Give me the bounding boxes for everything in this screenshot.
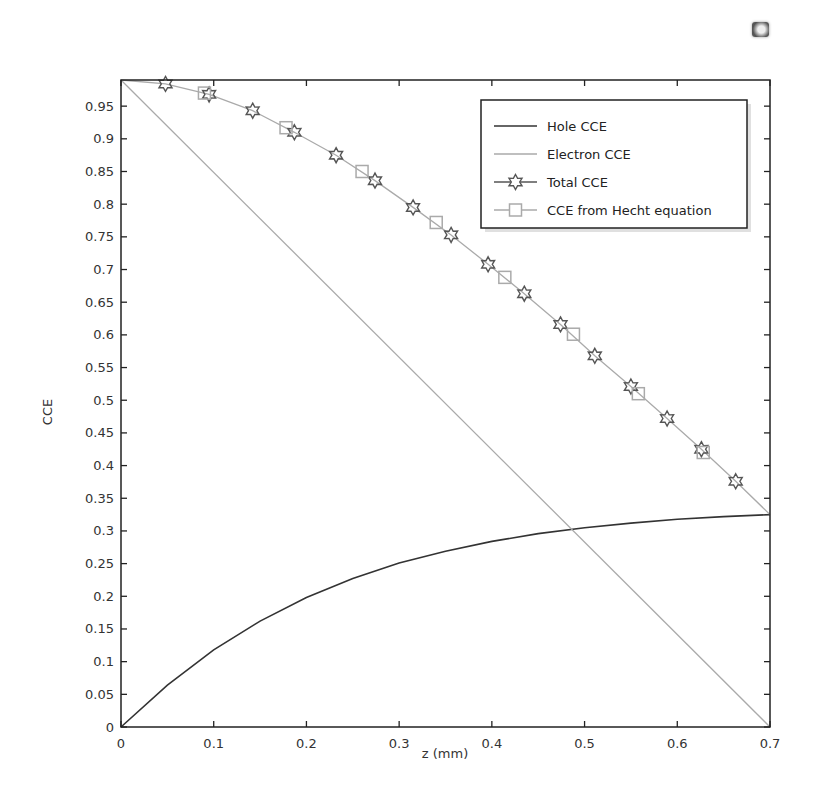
legend: Hole CCEElectron CCETotal CCECCE from He… xyxy=(481,100,751,232)
legend-label: Electron CCE xyxy=(547,147,631,162)
square-marker-icon xyxy=(510,204,522,216)
x-tick-label: 0.5 xyxy=(574,736,595,751)
y-tick-label: 0.1 xyxy=(93,654,114,669)
y-tick-label: 0.3 xyxy=(93,523,114,538)
y-tick-label: 0 xyxy=(106,720,114,735)
y-tick-label: 0.25 xyxy=(85,556,114,571)
cce-chart: 00.10.20.30.40.50.60.7 00.050.10.150.20.… xyxy=(0,0,823,790)
y-tick-label: 0.05 xyxy=(85,687,114,702)
x-tick-label: 0 xyxy=(117,736,125,751)
y-tick-label: 0.75 xyxy=(85,229,114,244)
legend-label: Total CCE xyxy=(546,175,608,190)
y-tick-label: 0.4 xyxy=(93,458,114,473)
y-tick-label: 0.95 xyxy=(85,99,114,114)
x-tick-label: 0.3 xyxy=(389,736,410,751)
x-tick-label: 0.4 xyxy=(482,736,503,751)
square-marker xyxy=(567,328,579,340)
y-tick-label: 0.2 xyxy=(93,589,114,604)
x-tick-label: 0.6 xyxy=(667,736,688,751)
y-tick-label: 0.85 xyxy=(85,164,114,179)
x-tick-label: 0.2 xyxy=(296,736,317,751)
x-tick-label: 0.7 xyxy=(760,736,781,751)
legend-label: Hole CCE xyxy=(547,119,607,134)
x-axis-label: z (mm) xyxy=(422,746,468,761)
y-tick-label: 0.8 xyxy=(93,197,114,212)
y-tick-label: 0.55 xyxy=(85,360,114,375)
y-tick-label: 0.65 xyxy=(85,295,114,310)
x-tick-label: 0.1 xyxy=(203,736,224,751)
y-tick-label: 0.7 xyxy=(93,262,114,277)
legend-label: CCE from Hecht equation xyxy=(547,203,712,218)
y-tick-label: 0.35 xyxy=(85,491,114,506)
y-tick-label: 0.9 xyxy=(93,131,114,146)
y-tick-label: 0.6 xyxy=(93,327,114,342)
y-tick-label: 0.45 xyxy=(85,425,114,440)
y-axis-label: CCE xyxy=(40,399,55,425)
series-hole-cce xyxy=(121,515,770,727)
y-tick-label: 0.5 xyxy=(93,393,114,408)
y-tick-label: 0.15 xyxy=(85,621,114,636)
